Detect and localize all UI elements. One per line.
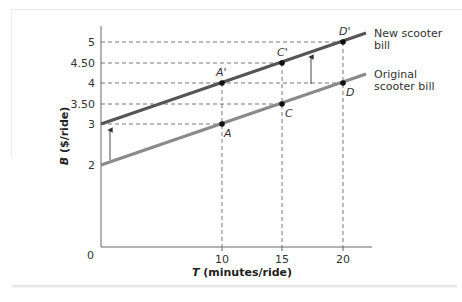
- point-C: [279, 101, 285, 107]
- svg-text:3: 3: [88, 118, 95, 131]
- origin-label: 0: [87, 249, 94, 262]
- legend-new-scooter-bill: New scooter bill: [374, 27, 443, 52]
- svg-text:bill: bill: [374, 39, 390, 52]
- svg-text:scooter bill: scooter bill: [374, 80, 435, 93]
- point-D: [340, 80, 346, 86]
- label-A: A: [223, 127, 232, 140]
- svg-text:4: 4: [88, 77, 95, 90]
- svg-text:15: 15: [275, 253, 289, 266]
- label-D-prime: D': [339, 25, 351, 38]
- label-C: C: [285, 107, 293, 120]
- svg-text:10: 10: [215, 253, 229, 266]
- point-A-prime: [219, 80, 225, 86]
- point-D-prime: [340, 39, 346, 45]
- new-scooter-bill-line: [101, 33, 366, 124]
- original-scooter-bill-line: [101, 74, 366, 165]
- svg-text:4.50: 4.50: [71, 57, 96, 70]
- x-tick-labels: 10 15 20: [215, 253, 350, 266]
- svg-text:20: 20: [336, 253, 350, 266]
- x-tick-marks: [222, 247, 343, 251]
- y-tick-labels: 5 4.50 4 3.50 3 2: [71, 36, 96, 172]
- label-D: D: [346, 86, 354, 99]
- point-C-prime: [279, 60, 285, 66]
- legend-original-scooter-bill: Original scooter bill: [374, 68, 435, 93]
- axes: [101, 26, 372, 247]
- svg-text:3.50: 3.50: [71, 98, 96, 111]
- label-C-prime: C': [277, 46, 288, 59]
- label-A-prime: A': [215, 66, 227, 79]
- svg-text:2: 2: [88, 159, 95, 172]
- svg-text:5: 5: [88, 36, 95, 49]
- x-axis-title: T (minutes/ride): [192, 266, 292, 279]
- point-A: [219, 121, 225, 127]
- y-axis-title: B ($/ride): [58, 107, 71, 165]
- vertical-guides: [222, 42, 343, 247]
